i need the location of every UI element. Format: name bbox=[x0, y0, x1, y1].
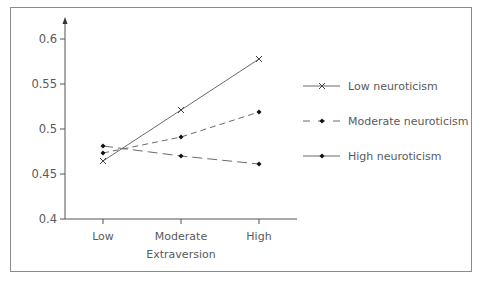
x-marker-icon bbox=[100, 158, 106, 164]
y-tick-label: 0.4 bbox=[39, 212, 57, 226]
diamond-marker-icon bbox=[320, 119, 325, 124]
legend-label: Moderate neuroticism bbox=[348, 115, 468, 128]
legend-item-low-neuroticism: Low neuroticism bbox=[303, 80, 438, 93]
x-tick-labels: Low Moderate High bbox=[92, 230, 271, 243]
diamond-marker-icon bbox=[179, 135, 184, 140]
x-tick-label-high: High bbox=[246, 230, 271, 243]
legend-item-high-neuroticism: High neuroticism bbox=[303, 150, 441, 163]
y-tick-label: 0.45 bbox=[31, 167, 57, 181]
series-low-neuroticism bbox=[100, 56, 262, 164]
y-tick-label: 0.5 bbox=[39, 122, 57, 136]
legend-item-moderate-neuroticism: Moderate neuroticism bbox=[303, 115, 468, 128]
y-axis-arrow-icon bbox=[63, 17, 68, 24]
legend: Low neuroticism Moderate neuroticism Hig… bbox=[303, 80, 468, 163]
diamond-marker-icon bbox=[257, 110, 262, 115]
x-tick-label-low: Low bbox=[92, 230, 114, 243]
legend-label: Low neuroticism bbox=[348, 80, 438, 93]
x-axis-title: Extraversion bbox=[146, 248, 215, 261]
diamond-marker-icon bbox=[101, 151, 106, 156]
legend-label: High neuroticism bbox=[348, 150, 441, 163]
y-ticks bbox=[60, 39, 65, 219]
y-tick-labels: 0.6 0.55 0.5 0.45 0.4 bbox=[31, 32, 57, 226]
line-chart: 0.6 0.55 0.5 0.45 0.4 Low Moderate High … bbox=[0, 0, 478, 284]
diamond-marker-icon bbox=[101, 144, 106, 149]
x-ticks bbox=[103, 219, 259, 224]
x-tick-label-moderate: Moderate bbox=[155, 230, 208, 243]
x-marker-icon bbox=[178, 107, 184, 113]
y-tick-label: 0.55 bbox=[31, 77, 57, 91]
series-moderate-neuroticism bbox=[101, 110, 262, 156]
diamond-marker-icon bbox=[179, 154, 184, 159]
x-marker-icon bbox=[256, 56, 262, 62]
diamond-marker-icon bbox=[257, 162, 262, 167]
diamond-marker-icon bbox=[320, 154, 325, 159]
y-tick-label: 0.6 bbox=[39, 32, 57, 46]
